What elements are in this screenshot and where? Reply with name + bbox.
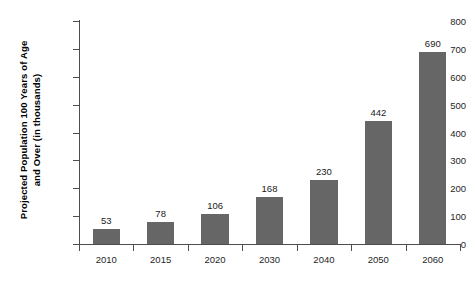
bar-chart-figure: Projected Population 100 Years of Age an…	[0, 0, 475, 281]
bar	[365, 121, 392, 244]
x-axis-category-label: 2030	[259, 254, 280, 265]
x-axis-tick	[460, 245, 461, 251]
x-axis-category-label: 2010	[96, 254, 117, 265]
x-axis-tick	[351, 245, 352, 251]
x-axis-category-label: 2060	[422, 254, 443, 265]
y-axis-title-line-2: and Over (in thousands)	[30, 41, 43, 220]
y-axis-title-text: Projected Population 100 Years of Age an…	[18, 41, 43, 220]
bar	[419, 52, 446, 244]
bar-value-label: 230	[316, 166, 332, 177]
bar-value-label: 690	[425, 38, 441, 49]
bar-value-label: 53	[101, 215, 112, 226]
x-axis-category-label: 2040	[313, 254, 334, 265]
bar	[310, 180, 337, 244]
bar-value-label: 106	[207, 200, 223, 211]
bar	[93, 229, 120, 244]
bar	[256, 197, 283, 244]
bar	[147, 222, 174, 244]
x-axis-tick	[79, 245, 80, 251]
y-axis-title-line-1: Projected Population 100 Years of Age	[18, 41, 31, 220]
x-axis-category-label: 2020	[204, 254, 225, 265]
x-axis-tick	[242, 245, 243, 251]
bar-value-label: 442	[370, 107, 386, 118]
x-axis-category-label: 2015	[150, 254, 171, 265]
plot-area	[79, 21, 460, 244]
bar-value-label: 168	[262, 183, 278, 194]
bar-value-label: 78	[155, 208, 166, 219]
x-axis-tick	[297, 245, 298, 251]
y-axis-title: Projected Population 100 Years of Age an…	[8, 14, 52, 246]
x-axis-line	[79, 244, 461, 245]
x-axis-tick	[133, 245, 134, 251]
x-axis-tick	[406, 245, 407, 251]
bar	[201, 214, 228, 244]
x-axis-tick	[188, 245, 189, 251]
x-axis-category-label: 2050	[368, 254, 389, 265]
